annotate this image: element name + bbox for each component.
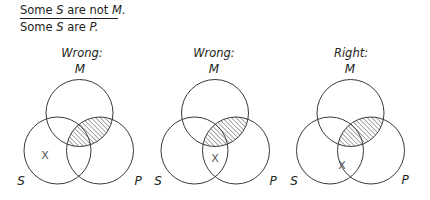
label-p: P xyxy=(401,173,409,187)
x-mark: X xyxy=(211,152,219,165)
label-s: S xyxy=(17,174,25,188)
diagram-title: Wrong: xyxy=(193,46,234,60)
circle-s xyxy=(161,117,228,184)
x-mark: X xyxy=(338,159,346,172)
label-s: S xyxy=(290,174,298,188)
diagram-title: Wrong: xyxy=(61,46,102,60)
label-s: S xyxy=(154,174,162,188)
label-p: P xyxy=(269,174,277,188)
x-mark: X xyxy=(41,149,49,162)
venn-diagram-1: Wrong: M X S P xyxy=(17,46,142,188)
circle-s xyxy=(24,117,91,184)
label-m: M xyxy=(75,62,86,76)
venn-diagram-2: Wrong: M X S P xyxy=(154,46,277,188)
venn-diagrams: Wrong: M X S P Wrong: M X S P Right: M X… xyxy=(0,0,430,200)
circle-s xyxy=(297,117,364,184)
label-p: P xyxy=(134,174,142,188)
label-m: M xyxy=(345,62,356,76)
label-m: M xyxy=(209,62,220,76)
venn-diagram-3: Right: M X S P xyxy=(290,46,409,188)
diagram-title: Right: xyxy=(334,46,368,60)
